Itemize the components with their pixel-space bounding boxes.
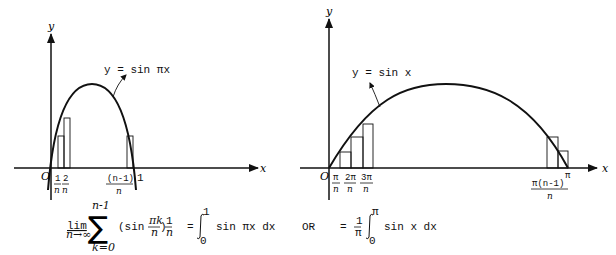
svg-text:n: n xyxy=(347,184,353,194)
riemann-sum-figure: y x O y = sin πx 1 n 2 n (n-1) n 1 y x O… xyxy=(0,0,616,255)
svg-text:n: n xyxy=(363,184,369,194)
svg-text:n: n xyxy=(54,185,60,195)
svg-text:π: π xyxy=(333,173,339,183)
sum-symbol: ∑ xyxy=(88,210,108,245)
int1-lower: 0 xyxy=(200,235,207,247)
term-frac-den: n xyxy=(151,226,158,239)
equals-1: = xyxy=(187,221,194,233)
left-tick-2: 2 n xyxy=(62,174,69,195)
svg-text:2π: 2π xyxy=(345,173,356,183)
right-tick-3: 3π n xyxy=(360,173,373,194)
svg-text:2: 2 xyxy=(63,174,68,184)
or-label: OR xyxy=(302,221,316,233)
left-curve-label-arrow xyxy=(113,75,126,97)
right-curve xyxy=(329,84,568,168)
right-tick-n-1: π(n-1) n xyxy=(531,179,568,201)
left-tick-n-1: (n-1) n xyxy=(106,174,134,196)
right-curve-label-arrow xyxy=(370,83,380,107)
right-bar-3 xyxy=(363,124,373,168)
left-end-label: 1 xyxy=(137,172,144,184)
svg-text:1: 1 xyxy=(55,174,60,184)
coef-den: π xyxy=(355,227,362,239)
int1-upper: 1 xyxy=(203,206,210,218)
svg-text:n: n xyxy=(333,184,339,194)
left-x-label: x xyxy=(260,162,267,175)
left-tick-1: 1 n xyxy=(54,174,61,195)
int2-lower: 0 xyxy=(369,235,376,247)
left-origin-label: O xyxy=(41,170,50,183)
equals-2: = xyxy=(340,221,347,233)
left-curve-label: y = sin πx xyxy=(104,64,170,76)
svg-text:n: n xyxy=(62,185,68,195)
sum-bottom: k=0 xyxy=(92,241,115,254)
right-origin-label: O xyxy=(320,170,329,183)
svg-text:n: n xyxy=(116,186,122,196)
right-tick-1: π n xyxy=(332,173,340,194)
svg-text:n: n xyxy=(547,191,553,201)
right-tick-2: 2π n xyxy=(344,173,356,194)
right-curve-label: y = sin x xyxy=(352,67,412,79)
left-y-label: y xyxy=(47,20,55,33)
right-x-label: x xyxy=(602,162,609,175)
int1-body: sin πx dx xyxy=(216,221,276,233)
svg-text:(n-1): (n-1) xyxy=(107,174,134,184)
left-bar-2 xyxy=(64,118,70,168)
one-over-n-den: n xyxy=(166,226,173,239)
right-bar-1 xyxy=(340,152,351,168)
right-end-label: π xyxy=(565,171,571,181)
right-y-label: y xyxy=(325,5,333,18)
left-bar-1 xyxy=(58,136,64,168)
coef-num: 1 xyxy=(356,215,363,227)
svg-text:3π: 3π xyxy=(361,173,372,183)
int2-upper: π xyxy=(372,206,379,218)
svg-text:π(n-1): π(n-1) xyxy=(532,179,564,189)
int2-body: sin x dx xyxy=(384,221,437,233)
left-graph xyxy=(14,34,258,200)
formula: lim n→∞ n-1 ∑ k=0 (sin πk n ) 1 n = 1 0 … xyxy=(66,199,437,254)
term-open: (sin xyxy=(118,221,144,233)
right-bar-2 xyxy=(351,137,363,168)
